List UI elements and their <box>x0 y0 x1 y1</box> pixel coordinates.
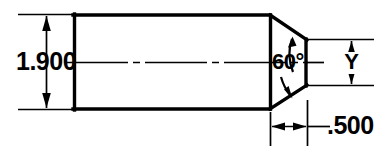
part-drawing-svg: 1.900 60° Y .500 <box>0 0 386 156</box>
arrowhead-point-length-left <box>272 122 286 130</box>
dimension-label-point-angle: 60° <box>272 49 304 74</box>
technical-drawing-canvas: 1.900 60° Y .500 <box>0 0 386 156</box>
arrowhead-point-length-right <box>293 122 307 130</box>
arrowhead-angle-top <box>288 37 297 48</box>
dimension-label-flat-face-height: Y <box>344 49 359 74</box>
dimension-label-point-length: .500 <box>327 111 374 139</box>
arrowhead-overall-diameter-bottom <box>42 93 51 108</box>
dimension-label-overall-diameter: 1.900 <box>16 47 76 75</box>
arrowhead-overall-diameter-top <box>42 16 51 31</box>
part-edge-chamfer-top <box>270 15 307 40</box>
